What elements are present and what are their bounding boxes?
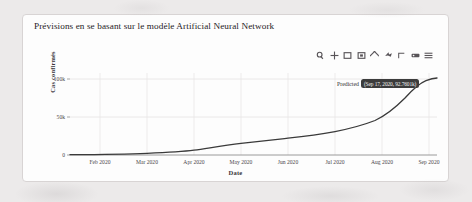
y-axis-ticks bbox=[67, 79, 70, 155]
x-tick-label-jun: Jun 2020 bbox=[278, 159, 298, 165]
autoscale-icon[interactable] bbox=[397, 51, 406, 60]
page-title: Prévisions en se basant sur le modèle Ar… bbox=[34, 21, 274, 31]
lasso-select-icon[interactable] bbox=[357, 51, 366, 60]
y-tick-label-100k: 100k bbox=[49, 76, 65, 82]
y-tick-label-0: 0 bbox=[49, 152, 65, 158]
x-tick-label-jul: Jul 2020 bbox=[325, 159, 344, 165]
reset-axes-icon[interactable] bbox=[411, 51, 420, 60]
x-tick-label-aug: Aug 2020 bbox=[371, 159, 393, 165]
zoom-in-icon[interactable] bbox=[370, 51, 379, 60]
pan-icon[interactable] bbox=[330, 51, 339, 60]
hover-series-name: Predicted bbox=[337, 81, 359, 87]
box-select-icon[interactable] bbox=[343, 51, 352, 60]
hover-value-box: (Sep 17, 2020, 92.7601k) bbox=[361, 79, 419, 88]
x-tick-label-feb: Feb 2020 bbox=[90, 159, 111, 165]
zoom-icon[interactable] bbox=[316, 51, 325, 60]
toggle-spike-lines-icon[interactable] bbox=[424, 51, 433, 60]
x-tick-label-mar: Mar 2020 bbox=[136, 159, 158, 165]
plotly-modebar[interactable] bbox=[316, 51, 433, 60]
x-tick-label-apr: Apr 2020 bbox=[183, 159, 204, 165]
hover-tooltip: Predicted (Sep 17, 2020, 92.7601k) bbox=[337, 79, 419, 88]
forecast-card: Prévisions en se basant sur le modèle Ar… bbox=[22, 14, 449, 182]
y-tick-label-50k: 50k bbox=[49, 114, 65, 120]
x-tick-label-sep: Sep 2020 bbox=[419, 159, 440, 165]
x-axis-title: Date bbox=[23, 169, 448, 176]
x-tick-label-may: May 2020 bbox=[230, 159, 253, 165]
zoom-out-icon[interactable] bbox=[384, 51, 393, 60]
